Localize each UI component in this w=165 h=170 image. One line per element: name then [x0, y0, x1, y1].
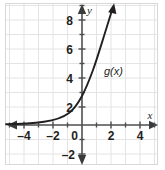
y-tick-label-8: 8 [66, 14, 73, 28]
curve-annotation-gx: g(x) [104, 65, 123, 77]
x-tick-label-2: 2 [108, 129, 115, 143]
coordinate-plane-graph: –4 –2 0 2 4 8 6 4 2 –2 y x g(x) [0, 0, 165, 170]
y-tick-label-neg2: –2 [62, 148, 76, 162]
y-tick-label-2: 2 [66, 101, 73, 115]
graph-figure: –4 –2 0 2 4 8 6 4 2 –2 y x g(x) [0, 0, 165, 170]
y-tick-label-4: 4 [66, 72, 73, 86]
x-tick-label-neg4: –4 [17, 129, 31, 143]
x-tick-label-0: 0 [71, 129, 78, 143]
x-tick-label-neg2: –2 [46, 129, 60, 143]
y-tick-label-6: 6 [66, 43, 73, 57]
x-axis-label: x [147, 109, 153, 121]
y-axis-label: y [86, 4, 92, 16]
x-tick-label-4: 4 [137, 129, 144, 143]
